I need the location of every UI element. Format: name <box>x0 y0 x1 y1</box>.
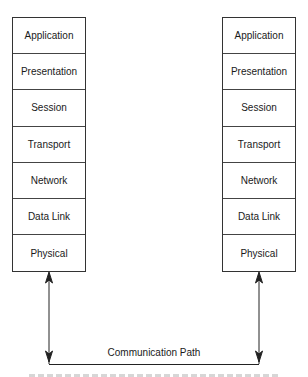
communication-path-label: Communication Path <box>0 347 308 358</box>
figure-caption-cropped <box>0 370 308 377</box>
communication-path-connector <box>0 0 308 377</box>
